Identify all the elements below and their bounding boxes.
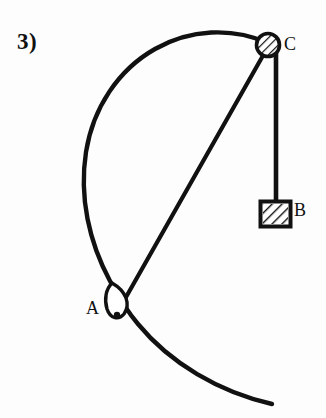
hanging-block-b (259, 200, 292, 228)
point-label-a: A (86, 299, 99, 317)
problem-number-label: 3) (17, 30, 37, 53)
point-label-c: C (284, 35, 296, 53)
physics-figure: 3) A B C (0, 0, 326, 418)
cord-segment-a-to-c (117, 52, 265, 313)
small-ring-at-a (106, 283, 128, 318)
point-label-b: B (294, 201, 306, 219)
figure-drawing-canvas (0, 0, 326, 418)
